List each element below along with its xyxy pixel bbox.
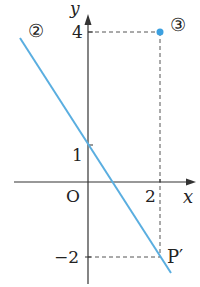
coordinate-plane: y x O 4 1 −2 2 ② ③ P′ [0,0,200,287]
y-axis-arrow-icon [85,14,92,25]
tick-label-yneg2: −2 [54,249,79,266]
y-axis-label: y [70,0,80,17]
line-2-marker: ② [28,22,44,40]
point-p-prime-label: P′ [167,248,183,266]
chart-svg [0,0,200,287]
tick-label-x2: 2 [145,188,156,205]
tick-label-y4: 4 [72,24,83,41]
tick-label-y1: 1 [72,147,83,164]
origin-label: O [66,188,80,205]
point-3 [157,29,164,36]
point-3-marker: ③ [170,16,186,34]
line-2 [20,38,171,273]
x-axis-arrow-icon [186,179,196,186]
x-axis-label: x [183,188,193,206]
